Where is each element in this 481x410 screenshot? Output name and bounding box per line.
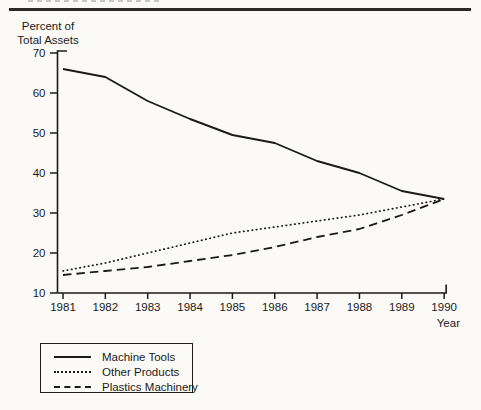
legend-box: Machine Tools Other Products Plastics Ma…: [40, 343, 193, 393]
x-tick-label: 1986: [262, 301, 288, 313]
x-tick-label: 1984: [177, 301, 203, 313]
x-tick-label: 1987: [304, 301, 330, 313]
x-tick-label: 1990: [431, 301, 457, 313]
x-axis-title: Year: [405, 317, 460, 329]
y-tick-label: 70: [33, 47, 46, 59]
figure-page: Percent of Total Assets 1020304050607019…: [0, 0, 481, 410]
y-tick-label: 50: [33, 127, 46, 139]
y-axis: [58, 51, 68, 293]
y-tick-label: 60: [33, 87, 46, 99]
x-tick-label: 1989: [389, 301, 415, 313]
series-line-machine-tools: [63, 69, 444, 199]
line-chart: 1020304050607019811982198319841985198619…: [0, 0, 481, 340]
y-tick-label: 40: [33, 167, 46, 179]
x-tick-label: 1981: [50, 301, 76, 313]
x-axis: [58, 285, 447, 294]
solid-line-swatch-icon: [54, 356, 91, 358]
y-tick-label: 10: [33, 287, 46, 299]
legend-label: Other Products: [102, 366, 179, 378]
legend-item-other-products: Other Products: [54, 365, 192, 379]
x-tick-label: 1985: [220, 301, 246, 313]
dotted-line-swatch-icon: [54, 371, 91, 373]
y-tick-label: 20: [33, 247, 46, 259]
series-line-plastics-machinery: [63, 199, 444, 275]
series-line-other-products: [63, 199, 444, 271]
x-tick-label: 1988: [347, 301, 373, 313]
dashed-line-swatch-icon: [54, 386, 91, 388]
legend-label: Machine Tools: [102, 351, 175, 363]
x-tick-label: 1982: [93, 301, 119, 313]
legend-item-machine-tools: Machine Tools: [54, 350, 192, 364]
x-tick-label: 1983: [135, 301, 161, 313]
legend-label: Plastics Machinery: [102, 381, 198, 393]
y-tick-label: 30: [33, 207, 46, 219]
legend-item-plastics-machinery: Plastics Machinery: [54, 380, 192, 394]
